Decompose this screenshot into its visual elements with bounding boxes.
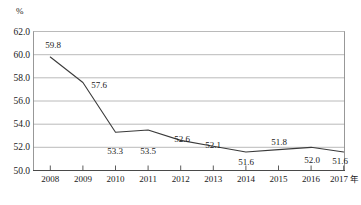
- data-label: 57.6: [91, 80, 107, 90]
- data-label: 51.6: [238, 157, 254, 167]
- x-tick-label: 2016: [302, 174, 321, 184]
- line-chart: % 62.0 60.0 58.0 56.0 54.0 52.0 50.0: [0, 0, 361, 205]
- y-tick-label: 52.0: [13, 142, 30, 152]
- x-tick-label: 2014: [237, 174, 256, 184]
- data-label: 53.3: [107, 146, 123, 156]
- data-label: 51.8: [271, 137, 287, 147]
- x-tick-label: 2017: [330, 174, 349, 184]
- x-tick-label: 2015: [270, 174, 289, 184]
- y-tick-label: 58.0: [13, 73, 30, 83]
- x-axis-unit-label: 年: [350, 174, 359, 184]
- y-tick-label: 54.0: [13, 119, 30, 129]
- data-series-line: [50, 57, 343, 152]
- data-label: 52.1: [205, 140, 221, 150]
- y-tick-label: 50.0: [13, 166, 30, 176]
- x-tick-label: 2009: [74, 174, 93, 184]
- x-tick-label: 2008: [41, 174, 60, 184]
- y-gridlines: [33, 32, 345, 148]
- y-axis-unit-label: %: [16, 6, 24, 16]
- x-tick-label: 2010: [107, 174, 126, 184]
- chart-canvas: % 62.0 60.0 58.0 56.0 54.0 52.0 50.0: [0, 0, 361, 205]
- x-tick-labels: 2008 2009 2010 2011 2012 2013 2014 2015 …: [41, 174, 348, 184]
- x-tick-label: 2013: [204, 174, 223, 184]
- data-label: 51.6: [332, 156, 348, 166]
- y-tick-label: 62.0: [13, 27, 30, 37]
- data-label: 53.5: [140, 146, 156, 156]
- data-label: 52.0: [304, 155, 320, 165]
- data-label: 59.8: [45, 40, 61, 50]
- y-tick-label: 60.0: [13, 50, 30, 60]
- x-tick-label: 2011: [139, 174, 157, 184]
- data-label: 52.6: [174, 134, 190, 144]
- x-tick-marks: [50, 166, 343, 171]
- y-tick-labels: 62.0 60.0 58.0 56.0 54.0 52.0 50.0: [13, 27, 30, 176]
- y-tick-label: 56.0: [13, 96, 30, 106]
- x-tick-label: 2012: [172, 174, 190, 184]
